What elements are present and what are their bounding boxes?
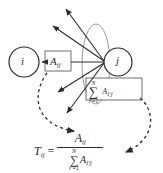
formula-lhs-subscript: ij <box>41 150 45 158</box>
formula-numerator-subscript: ij <box>82 138 86 146</box>
formula-denominator-subscript: i′j <box>86 159 91 167</box>
formula-numerator: Aij <box>71 131 90 147</box>
formula-numerator-base: A <box>75 131 82 145</box>
formula-denominator-term: Ai′j <box>80 154 92 167</box>
edge-weight-subscript: ij <box>57 61 61 69</box>
degree-sum-term-subscript: i′j <box>107 90 112 98</box>
formula-lower-limit: i′=1 <box>69 166 79 172</box>
formula-fraction: Aij N ∑ i′=1 Ai′j <box>57 131 103 172</box>
formula-denominator: N ∑ i′=1 Ai′j <box>66 148 95 172</box>
edge-j-out-1 <box>66 9 104 61</box>
formula-lhs: Tij <box>34 144 45 159</box>
degree-sum-sigma-stack: N ∑ i′=1 <box>89 81 98 104</box>
graph-normalization-figure: i j Aij N ∑ i′=1 Ai′j Tij = Aij N ∑ i′=1… <box>0 0 163 173</box>
normalization-formula: Tij = Aij N ∑ i′=1 Ai′j <box>34 131 103 172</box>
edge-weight-label: Aij <box>50 56 61 69</box>
formula-lhs-base: T <box>34 144 41 158</box>
formula-sigma-stack: N ∑ i′=1 <box>69 149 79 172</box>
numerator-pointer-arrow <box>38 73 74 131</box>
degree-sum-label: N ∑ i′=1 Ai′j <box>89 81 113 104</box>
node-j-label: j <box>116 55 119 66</box>
formula-equals: = <box>48 144 55 159</box>
denominator-pointer-arrow <box>126 98 151 152</box>
node-i-label: i <box>21 56 24 67</box>
degree-sum-term: Ai′j <box>102 87 112 98</box>
degree-sum-lower-limit: i′=1 <box>89 99 98 104</box>
edge-weight-base: A <box>50 55 57 67</box>
sigma-icon: ∑ <box>89 86 98 98</box>
